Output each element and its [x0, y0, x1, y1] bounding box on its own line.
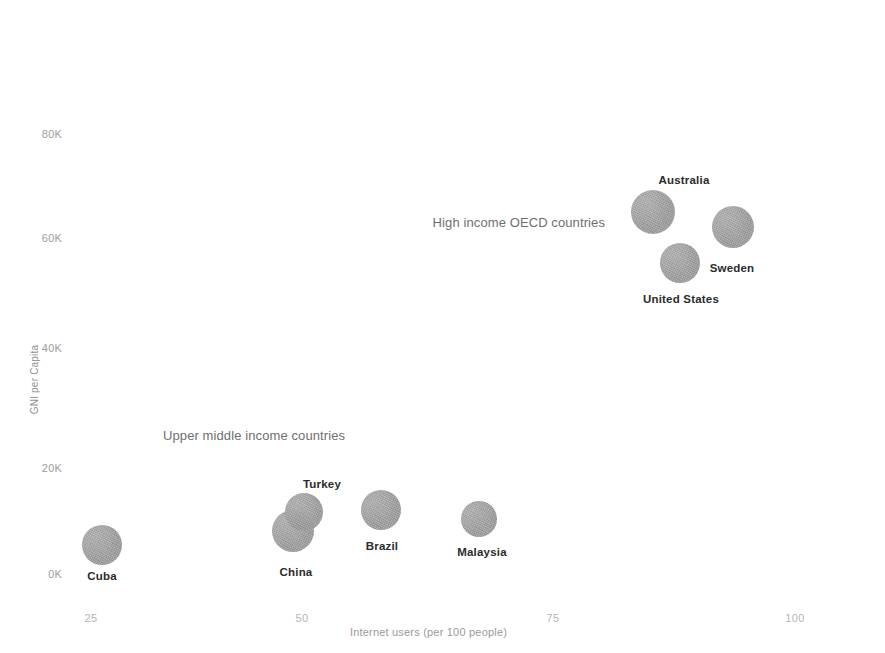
group-annotation-label: Upper middle income countries	[163, 428, 345, 443]
bubble-point-label: Australia	[658, 174, 709, 186]
bubble-point[interactable]	[631, 190, 675, 234]
y-axis-tick-label: 60K	[0, 232, 62, 244]
bubble-point-label: Brazil	[366, 540, 399, 552]
bubble-point[interactable]	[660, 243, 700, 283]
bubble-point-label: Malaysia	[457, 546, 507, 558]
bubble-point-label: Cuba	[87, 570, 117, 582]
y-axis-tick-label: 0K	[0, 568, 62, 580]
bubble-point[interactable]	[82, 525, 122, 565]
bubble-point-label: Turkey	[303, 478, 341, 490]
x-axis-tick-label: 50	[296, 612, 309, 624]
group-annotation-label: High income OECD countries	[433, 215, 605, 230]
bubble-point-label: United States	[643, 293, 719, 305]
x-axis-tick-label: 25	[85, 612, 98, 624]
bubble-point[interactable]	[712, 206, 754, 248]
y-axis-tick-label: 80K	[0, 128, 62, 140]
x-axis-tick-label: 100	[785, 612, 804, 624]
bubble-point[interactable]	[285, 493, 323, 531]
x-axis-title: Internet users (per 100 people)	[0, 626, 857, 638]
bubble-point[interactable]	[361, 490, 401, 530]
y-axis-tick-label: 20K	[0, 462, 62, 474]
x-axis-tick-label: 75	[547, 612, 560, 624]
bubble-point[interactable]	[461, 501, 497, 537]
bubble-chart: 80K60K40K20K0K GNI per Capita CubaChinaT…	[0, 0, 885, 653]
bubble-point-label: China	[280, 566, 313, 578]
y-axis-title: GNI per Capita	[29, 320, 40, 440]
bubble-point-label: Sweden	[710, 262, 755, 274]
